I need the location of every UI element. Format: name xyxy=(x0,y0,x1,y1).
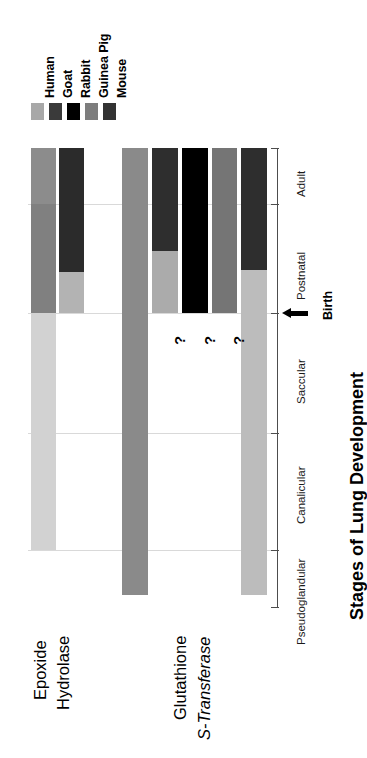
unknown-marker-goat: ? xyxy=(172,336,187,345)
axis-tick-postnatal-saccular xyxy=(271,313,279,314)
bar-epoxide-hydrolase-goat xyxy=(59,148,84,313)
bar-segment-postnatal-early xyxy=(241,270,267,313)
stage-label-postnatal: Postnatal xyxy=(296,252,308,300)
bar-segment-adult xyxy=(241,148,267,204)
bar-segment-postnatal xyxy=(212,204,237,313)
bar-glutathione-s-transferase-human xyxy=(122,148,148,595)
bar-segment-prenatal xyxy=(122,313,148,595)
axis-tick-adult-postnatal xyxy=(271,204,279,205)
stage-label-adult: Adult xyxy=(296,171,308,197)
enzyme-label-epoxide-hydrolase-line2: Hydrolase xyxy=(55,636,72,710)
stage-axis-line xyxy=(277,148,278,608)
enzyme-label-glutathione-s-transferase-line2: S-Transferase xyxy=(196,637,213,740)
axis-tick-pseudoglandular-bottom xyxy=(271,607,279,608)
bar-segment-postnatal xyxy=(182,204,208,313)
bar-segment-prenatal xyxy=(241,313,267,595)
axis-title: Stages of Lung Development xyxy=(348,372,366,620)
stage-label-canalicular: Canalicular xyxy=(296,466,308,524)
bar-segment-adult xyxy=(31,148,56,204)
bar-segment-postnatal-late xyxy=(241,204,267,270)
bar-epoxide-hydrolase-human xyxy=(31,148,56,550)
stage-label-pseudoglandular: Pseudoglandular xyxy=(296,559,308,645)
birth-arrow-icon xyxy=(282,308,308,318)
bar-segment-adult xyxy=(182,148,208,204)
enzyme-label-epoxide-hydrolase-line1: Epoxide xyxy=(32,640,49,700)
stage-label-saccular: Saccular xyxy=(296,359,308,404)
bar-segment-adult xyxy=(152,148,178,204)
bar-segment-postnatal xyxy=(31,204,56,313)
bar-segment-postnatal-early xyxy=(59,272,84,313)
unknown-marker-rabbit: ? xyxy=(202,336,217,345)
bar-glutathione-s-transferase-rabbit xyxy=(182,148,208,313)
bar-segment-postnatal-late xyxy=(59,204,84,272)
bar-segment-adult xyxy=(59,148,84,204)
bar-glutathione-s-transferase-mouse xyxy=(241,148,267,595)
enzyme-label-glutathione-s-transferase-line1: Glutathione xyxy=(172,636,189,720)
bar-glutathione-s-transferase-goat xyxy=(152,148,178,313)
axis-tick-adult-top xyxy=(271,148,279,149)
bar-segment-adult xyxy=(122,148,148,204)
bar-segment-postnatal-early xyxy=(152,251,178,313)
bar-segment-postnatal-late xyxy=(152,204,178,251)
birth-label: Birth xyxy=(322,291,335,320)
bar-segment-prenatal xyxy=(31,313,56,550)
axis-tick-canalicular-pseudoglandular xyxy=(271,550,279,551)
bar-glutathione-s-transferase-guinea-pig xyxy=(212,148,237,313)
axis-tick-saccular-canalicular xyxy=(271,433,279,434)
arrow-shaft xyxy=(290,311,308,316)
bar-segment-adult xyxy=(212,148,237,204)
unknown-marker-guinea-pig: ? xyxy=(231,336,246,345)
bar-segment-postnatal xyxy=(122,204,148,313)
